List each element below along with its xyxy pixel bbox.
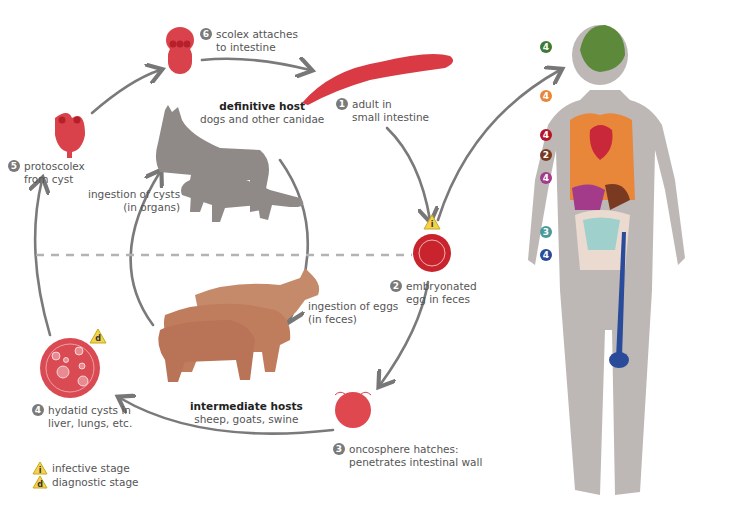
infective-marker-icon: i bbox=[424, 215, 440, 229]
heart-badge: 4 bbox=[540, 129, 552, 141]
legend: i infective stage d diagnostic stage bbox=[32, 461, 139, 489]
legend-infective-label: infective stage bbox=[52, 462, 130, 475]
legend-item-infective: i infective stage bbox=[32, 461, 139, 475]
legend-item-diagnostic: d diagnostic stage bbox=[32, 475, 139, 489]
lungs-badge: 4 bbox=[540, 90, 552, 102]
legend-diagnostic-label: diagnostic stage bbox=[52, 476, 139, 489]
brain-badge: 4 bbox=[540, 41, 552, 53]
stage-markers: i d bbox=[0, 0, 735, 510]
diagnostic-marker-icon: d bbox=[90, 329, 106, 343]
stomach-badge: 2 bbox=[540, 149, 552, 161]
liver-badge: 4 bbox=[540, 172, 552, 184]
svg-text:d: d bbox=[37, 480, 43, 489]
diagnostic-stage-icon: d bbox=[32, 475, 48, 489]
infective-stage-icon: i bbox=[32, 461, 48, 475]
svg-text:d: d bbox=[95, 334, 101, 343]
svg-text:i: i bbox=[39, 466, 42, 475]
svg-text:i: i bbox=[431, 220, 434, 229]
bone-badge: 4 bbox=[540, 249, 552, 261]
intestines-badge: 3 bbox=[540, 226, 552, 238]
